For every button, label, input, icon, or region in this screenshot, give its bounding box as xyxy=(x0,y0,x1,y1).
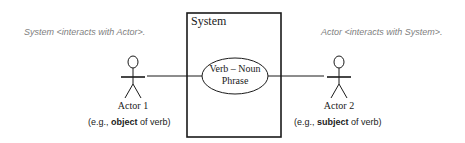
actor-2-label: Actor 2 xyxy=(319,100,359,111)
actor-2-caption-role: subject xyxy=(317,117,349,127)
actor-1-caption: (e.g., object of verb) xyxy=(88,117,171,127)
actor-1-interaction-note: System <interacts with Actor>. xyxy=(24,27,145,37)
actor-2-figure-icon xyxy=(327,56,351,98)
system-label: System xyxy=(191,14,226,29)
actor-1-figure-icon xyxy=(121,56,145,98)
actor-1-caption-prefix: (e.g., xyxy=(88,117,111,127)
actor-2-caption: (e.g., subject of verb) xyxy=(294,117,382,127)
actor-2-interaction-note: Actor <interacts with System>. xyxy=(321,27,443,37)
use-case-label-line1: Verb – Noun xyxy=(202,63,268,74)
actor-1-caption-role: object xyxy=(111,117,138,127)
actor-2-caption-prefix: (e.g., xyxy=(294,117,317,127)
use-case-label-line2: Phrase xyxy=(202,75,268,86)
use-case-diagram: System Verb – Noun Phrase System <intera… xyxy=(0,0,465,143)
actor-1-caption-suffix: of verb) xyxy=(138,117,171,127)
actor-2-caption-suffix: of verb) xyxy=(349,117,382,127)
actor-1-label: Actor 1 xyxy=(113,100,153,111)
